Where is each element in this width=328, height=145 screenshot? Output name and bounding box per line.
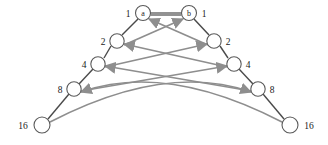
- cross-edges-group: [50, 19, 282, 122]
- edge-right-2-4: [220, 46, 228, 58]
- edge-left-a-2: [122, 19, 138, 35]
- nodes-group: [34, 6, 298, 134]
- label-left-1: 1: [126, 9, 131, 19]
- diagram-canvas: a b 1 2 4 8 16 1 2 4 8 16: [0, 0, 328, 145]
- edge-left-8-16: [48, 94, 69, 119]
- edge-left-4-8: [79, 69, 93, 84]
- node-left-8[interactable]: [67, 82, 81, 96]
- label-left-16: 16: [18, 121, 28, 131]
- node-label-b: b: [187, 9, 191, 18]
- label-left-4: 4: [82, 60, 87, 70]
- node-right-16[interactable]: [282, 117, 298, 133]
- node-right-4[interactable]: [227, 57, 241, 71]
- edge-left-2-4: [104, 46, 111, 58]
- node-left-16[interactable]: [34, 117, 50, 133]
- node-label-a: a: [141, 9, 145, 18]
- label-right-4: 4: [246, 60, 251, 70]
- cross-edge-right2-to-a: [149, 19, 208, 45]
- label-right-2: 2: [226, 37, 231, 47]
- label-right-1: 1: [202, 9, 207, 19]
- node-right-8[interactable]: [251, 82, 265, 96]
- edge-right-4-8: [239, 69, 253, 84]
- node-left-2[interactable]: [110, 34, 124, 48]
- edge-right-8-16: [263, 94, 284, 119]
- label-left-2: 2: [101, 37, 106, 47]
- label-right-8: 8: [270, 85, 275, 95]
- edge-right-b-2: [194, 19, 209, 35]
- node-right-2[interactable]: [207, 34, 221, 48]
- node-left-4[interactable]: [91, 57, 105, 71]
- label-right-16: 16: [304, 121, 314, 131]
- label-left-8: 8: [58, 85, 63, 95]
- cross-edge-left2-to-b: [124, 19, 183, 45]
- graph-figure: a b 1 2 4 8 16 1 2 4 8 16: [0, 0, 328, 145]
